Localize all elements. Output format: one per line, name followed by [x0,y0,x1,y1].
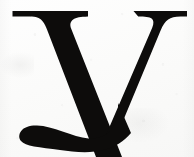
scan-edge-vignette [0,0,194,157]
scanned-letter-image [0,0,194,157]
